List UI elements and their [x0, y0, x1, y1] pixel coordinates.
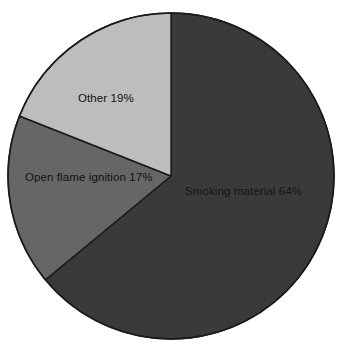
pie-slice-label-smoking-material: Smoking material 64%	[185, 185, 302, 198]
pie-slice-label-other: Other 19%	[78, 92, 134, 105]
pie-slice-label-open-flame-ignition: Open flame ignition 17%	[25, 171, 153, 184]
pie-chart-figure: Smoking material 64% Open flame ignition…	[0, 0, 343, 348]
